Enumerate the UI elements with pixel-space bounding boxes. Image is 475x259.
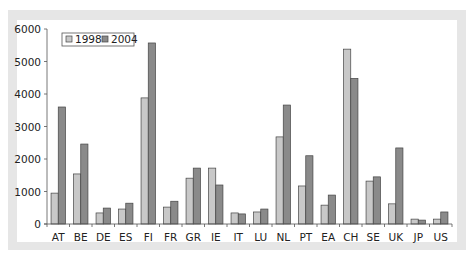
x-tick-label: AT: [52, 231, 65, 243]
bar-EA-1998: [321, 205, 328, 224]
bar-FR-2004: [171, 201, 178, 224]
bar-LU-1998: [254, 212, 261, 224]
bar-GR-1998: [186, 178, 193, 224]
bar-SE-1998: [366, 181, 373, 224]
x-tick-label: IE: [211, 231, 221, 243]
bar-ES-1998: [119, 209, 126, 224]
bar-BE-2004: [81, 144, 88, 224]
bar-US-2004: [441, 212, 448, 224]
bar-UK-2004: [396, 148, 403, 224]
x-tick-label: FR: [164, 231, 177, 243]
bar-DE-2004: [103, 208, 110, 224]
bar-GR-2004: [193, 168, 200, 224]
bar-chart: ATBEDEESFIFRGRIEITLUNLPTEACHSEUKJPUS0100…: [0, 0, 475, 259]
x-tick-label: GR: [186, 231, 201, 243]
x-tick-label: CH: [343, 231, 358, 243]
x-tick-label: UK: [388, 231, 404, 243]
y-tick-label: 3000: [14, 121, 41, 133]
x-tick-label: NL: [276, 231, 290, 243]
x-tick-label: IT: [233, 231, 243, 243]
y-tick-label: 2000: [14, 153, 41, 165]
bar-IT-1998: [231, 213, 238, 224]
bar-US-1998: [434, 219, 441, 224]
legend-swatch-2004: [102, 36, 108, 42]
bar-BE-1998: [74, 174, 81, 224]
bar-FI-2004: [148, 43, 155, 224]
bar-JP-2004: [418, 220, 425, 224]
bars-group: [51, 43, 448, 224]
bar-SE-2004: [373, 177, 380, 224]
legend-label-1998: 1998: [75, 33, 102, 45]
y-tick-label: 0: [34, 218, 41, 230]
y-tick-label: 6000: [14, 23, 41, 35]
legend: 1998 2004: [62, 33, 138, 46]
x-tick-label: PT: [299, 231, 312, 243]
legend-label-2004: 2004: [111, 33, 138, 45]
bar-IT-2004: [238, 214, 245, 224]
x-tick-label: SE: [367, 231, 380, 243]
y-tick-label: 5000: [14, 56, 41, 68]
bar-ES-2004: [126, 203, 133, 224]
bar-CH-2004: [351, 78, 358, 224]
bar-IE-2004: [216, 185, 223, 224]
x-tick-label: JP: [413, 231, 423, 243]
bar-AT-1998: [51, 193, 58, 224]
x-tick-label: DE: [96, 231, 111, 243]
legend-swatch-1998: [66, 36, 72, 42]
y-tick-label: 1000: [14, 186, 41, 198]
x-tick-label: BE: [74, 231, 88, 243]
bar-FI-1998: [141, 98, 148, 224]
bar-LU-2004: [261, 209, 268, 224]
x-tick-label: LU: [254, 231, 267, 243]
x-tick-label: US: [434, 231, 449, 243]
bar-NL-1998: [276, 137, 283, 224]
bar-UK-1998: [389, 204, 396, 224]
x-tick-label: EA: [321, 231, 336, 243]
x-tick-label: FI: [144, 231, 153, 243]
y-tick-label: 4000: [14, 88, 41, 100]
bar-IE-1998: [209, 168, 216, 224]
bar-PT-1998: [299, 186, 306, 224]
bar-PT-2004: [306, 156, 313, 224]
bar-CH-1998: [344, 49, 351, 224]
bar-FR-1998: [164, 207, 171, 224]
bar-EA-2004: [328, 195, 335, 224]
x-tick-label: ES: [119, 231, 133, 243]
bar-JP-1998: [411, 219, 418, 224]
bar-DE-1998: [96, 213, 103, 224]
bar-NL-2004: [283, 105, 290, 224]
bar-AT-2004: [58, 107, 65, 224]
